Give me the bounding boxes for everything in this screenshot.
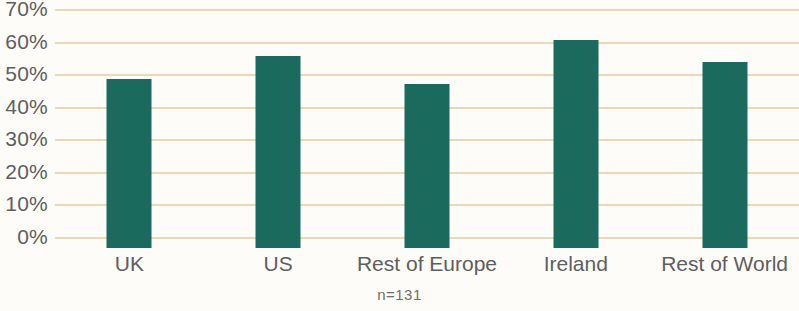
x-axis-category-label: UK <box>55 250 204 277</box>
bar-slot <box>501 10 650 248</box>
y-axis-tick-label: 50% <box>0 63 48 84</box>
y-axis-tick-label: 40% <box>0 96 48 117</box>
bar[interactable] <box>553 40 598 248</box>
sample-size-annotation: n=131 <box>0 286 799 303</box>
y-axis-tick-label: 10% <box>0 193 48 214</box>
bar[interactable] <box>404 84 449 248</box>
bar-chart: 0%10%20%30%40%50%60%70% UKUSRest of Euro… <box>0 0 799 311</box>
x-axis-category-label: Rest of World <box>650 250 799 277</box>
bar-slot <box>353 10 502 248</box>
bar[interactable] <box>256 56 301 248</box>
y-axis-tick-label: 70% <box>0 0 48 19</box>
y-axis-tick-label: 60% <box>0 31 48 52</box>
bar[interactable] <box>107 79 152 248</box>
x-axis-category-label: US <box>204 250 353 277</box>
y-axis-tick-label: 20% <box>0 161 48 182</box>
bar[interactable] <box>702 62 747 248</box>
bar-slot <box>650 10 799 248</box>
category-axis: UKUSRest of EuropeIrelandRest of World <box>0 250 799 284</box>
y-axis-tick-label: 30% <box>0 128 48 149</box>
bar-slot <box>55 10 204 248</box>
x-axis-category-label: Ireland <box>501 250 650 277</box>
bar-slot <box>204 10 353 248</box>
x-axis-category-label: Rest of Europe <box>353 250 502 277</box>
plot-area: 0%10%20%30%40%50%60%70% <box>0 0 799 248</box>
y-axis-tick-label: 0% <box>0 226 48 247</box>
